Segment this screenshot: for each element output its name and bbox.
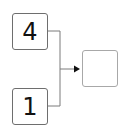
input-value-top: 4 — [22, 20, 37, 44]
arrow-head-icon — [74, 66, 80, 73]
answer-box[interactable] — [82, 50, 118, 87]
bracket-line — [48, 31, 60, 106]
input-box-top: 4 — [12, 13, 48, 50]
input-box-bottom: 1 — [12, 88, 48, 125]
input-value-bottom: 1 — [22, 95, 37, 119]
